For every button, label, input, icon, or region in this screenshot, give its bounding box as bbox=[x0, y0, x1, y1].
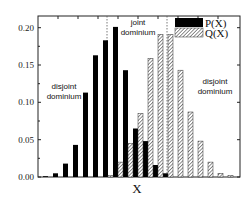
bar-p bbox=[53, 173, 58, 177]
bar-q bbox=[218, 173, 223, 177]
legend: P(X) Q(X) bbox=[175, 17, 229, 41]
y-tick-label: 0.15 bbox=[18, 60, 34, 70]
bar-q bbox=[118, 162, 123, 177]
bar-p bbox=[143, 141, 148, 177]
bar-q bbox=[138, 114, 143, 178]
annotation-middle-line2: dominium bbox=[121, 28, 156, 37]
y-tick-label: 0.00 bbox=[18, 172, 34, 182]
bar-q bbox=[168, 34, 173, 177]
bar-q bbox=[128, 143, 133, 177]
bar-q bbox=[148, 58, 153, 177]
annotation-right-line2: dominium bbox=[198, 87, 233, 96]
bar-q bbox=[228, 176, 233, 178]
y-tick-label: 0.10 bbox=[18, 97, 34, 107]
legend-swatch-p bbox=[175, 18, 203, 27]
annotation-right-line1: disjoint bbox=[203, 77, 229, 86]
bar-p bbox=[133, 129, 138, 178]
annotation-left-line1: disjoint bbox=[52, 82, 78, 91]
annotation-left-line2: dominium bbox=[47, 92, 82, 101]
bar-q bbox=[108, 176, 113, 178]
bar-q bbox=[158, 34, 163, 177]
bar-p bbox=[73, 145, 78, 177]
y-tick-label: 0.20 bbox=[18, 23, 34, 33]
bar-p bbox=[43, 176, 48, 177]
x-axis-label: X bbox=[132, 181, 142, 196]
chart: 0.00 0.05 0.10 0.15 0.20 bbox=[0, 0, 248, 205]
bar-p bbox=[93, 55, 98, 177]
bar-q bbox=[178, 70, 183, 177]
legend-swatch-q bbox=[175, 28, 203, 37]
annotation-middle-line1: joint bbox=[130, 18, 146, 27]
bar-q bbox=[208, 162, 213, 177]
bar-q bbox=[188, 112, 193, 177]
legend-label-q: Q(X) bbox=[205, 27, 229, 40]
bar-p bbox=[113, 27, 118, 177]
bar-q bbox=[198, 141, 203, 177]
bar-p bbox=[163, 173, 168, 177]
bar-p bbox=[153, 165, 158, 177]
bar-p bbox=[83, 93, 88, 177]
bar-p bbox=[123, 70, 128, 177]
y-tick-label: 0.05 bbox=[18, 135, 34, 145]
bar-p bbox=[103, 40, 108, 177]
bar-p bbox=[63, 164, 68, 177]
